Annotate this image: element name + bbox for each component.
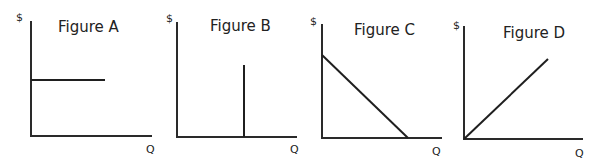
figure-d: $ Figure D Q [453,19,584,160]
x-axis-label: Q [432,145,441,158]
figure-title: Figure C [354,21,415,39]
upward-sloping-curve [464,59,548,139]
axes [322,24,442,138]
x-axis-label: Q [146,143,155,156]
axes [31,21,152,136]
x-axis-label: Q [290,143,299,156]
y-axis-label: $ [453,19,460,32]
x-axis-label: Q [575,147,584,160]
figure-title: Figure B [210,17,271,35]
y-axis-label: $ [310,15,317,28]
figures-canvas: $ Figure A Q $ Figure B Q $ Figure C Q $… [0,0,601,164]
figure-title: Figure D [503,24,565,42]
figure-b: $ Figure B Q [166,12,299,156]
y-axis-label: $ [166,12,173,25]
figure-title: Figure A [58,18,120,36]
downward-sloping-curve [322,55,408,138]
figure-a: $ Figure A Q [16,11,155,156]
axes [177,22,297,137]
y-axis-label: $ [16,11,23,24]
figure-c: $ Figure C Q [310,15,442,158]
